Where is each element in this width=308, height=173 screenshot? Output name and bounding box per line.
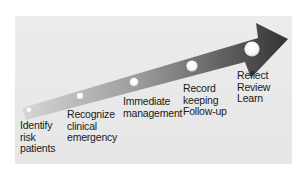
step-node-2 — [77, 93, 84, 100]
step-label-reflect: Reflect Review Learn — [237, 70, 270, 105]
step-label-immediate: Immediate management — [123, 96, 182, 119]
step-label-record: Record keeping Follow-up — [183, 83, 227, 118]
step-node-4 — [186, 60, 197, 71]
step-node-1 — [26, 107, 31, 112]
step-node-3 — [130, 78, 139, 87]
step-node-5 — [244, 41, 259, 56]
step-label-identify: Identify risk patients — [20, 120, 55, 155]
step-label-recognize: Recognize clinical emergency — [67, 109, 117, 144]
